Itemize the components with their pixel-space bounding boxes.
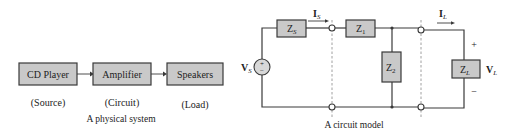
- circuit-model-caption: A circuit model: [324, 120, 383, 130]
- source-role-label: (Source): [31, 97, 65, 109]
- is-arrow-head: [325, 19, 329, 22]
- cd-player-label: CD Player: [27, 69, 70, 80]
- il-label: IL: [439, 8, 447, 21]
- physical-system: CD Player (Source) Amplifier (Circuit) S…: [19, 63, 223, 124]
- terminal-bottom-right: [418, 104, 424, 110]
- source-minus: −: [260, 67, 264, 75]
- wire-source-top: [262, 28, 277, 59]
- is-label: IS: [313, 8, 321, 21]
- amplifier-label: Amplifier: [102, 69, 142, 80]
- physical-system-caption: A physical system: [86, 114, 156, 124]
- vl-minus: −: [471, 86, 477, 97]
- circuit-role-label: (Circuit): [105, 97, 139, 109]
- vs-label: VS: [241, 62, 252, 75]
- vl-label: VL: [486, 64, 497, 77]
- vl-plus: +: [471, 39, 477, 50]
- wire-load-top: [424, 30, 464, 60]
- terminal-bottom-left: [329, 104, 335, 110]
- terminal-top-left: [329, 25, 335, 31]
- arrow-head-2: [163, 72, 167, 77]
- wire-load-bottom: [424, 78, 464, 108]
- diagram-canvas: CD Player (Source) Amplifier (Circuit) S…: [0, 0, 508, 136]
- circuit-model: + − VS ZS IS Z1 Z2 IL: [241, 8, 497, 130]
- wire-source-bottom: [262, 75, 331, 107]
- il-arrow-head: [451, 21, 455, 24]
- load-role-label: (Load): [181, 99, 208, 111]
- terminal-top-right: [418, 27, 424, 33]
- speakers-label: Speakers: [177, 69, 213, 80]
